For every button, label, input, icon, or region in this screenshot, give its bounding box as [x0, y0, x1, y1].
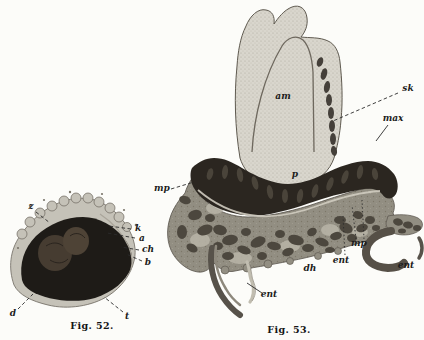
fig53-label-ent-7: ent: [398, 260, 415, 270]
fig53-right-arm: [386, 215, 422, 258]
fig53-label-dh-8: dh: [304, 263, 317, 273]
fig52-label-z-0: z: [27, 201, 34, 211]
fig52-label-b-4: b: [145, 257, 151, 267]
fig53-illustration: amskmaxpmpmpententdhent Fig. 53.: [154, 6, 422, 335]
fig52-label-t-6: t: [125, 311, 130, 321]
fig52-label-ch-3: ch: [142, 244, 154, 254]
fig53-caption: Fig. 53.: [267, 324, 310, 335]
fig52-leader-t-6: [104, 297, 123, 312]
fig52-caption: Fig. 52.: [70, 320, 113, 331]
fig53-label-sk-1: sk: [402, 83, 413, 93]
fig53-label-am-0: am: [275, 91, 290, 101]
fig53-label-ent-9: ent: [261, 289, 278, 299]
fig53-leader-max-2: [376, 125, 388, 141]
fig52-label-k-1: k: [135, 223, 141, 233]
plate-svg: amskmaxpmpmpententdhent Fig. 53.: [0, 0, 424, 340]
fig53-label-p-3: p: [292, 169, 299, 179]
fig52-label-a-2: a: [139, 233, 145, 243]
fig53-label-max-2: max: [383, 113, 404, 123]
fig53-label-mp-5: mp: [351, 238, 368, 248]
plate-canvas: amskmaxpmpmpententdhent Fig. 53.: [0, 0, 424, 340]
fig52-illustration: zkachbdt Fig. 52.: [10, 191, 154, 331]
fig53-label-ent-6: ent: [333, 255, 350, 265]
fig52-label-d-5: d: [10, 308, 17, 318]
fig53-label-mp-4: mp: [154, 183, 171, 193]
